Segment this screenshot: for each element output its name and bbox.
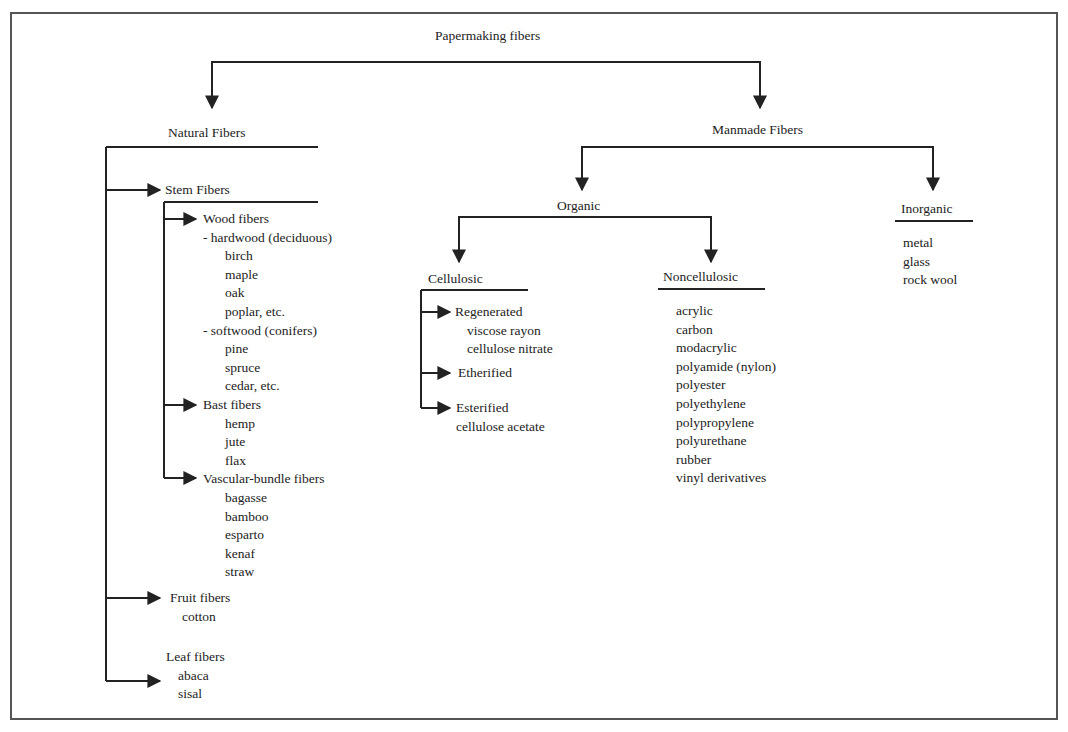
list-item: cellulose nitrate [455,340,553,359]
connector-lines [0,0,1068,732]
list-item: kenaf [203,545,332,564]
list-item: rubber [676,451,776,470]
list-item: oak [203,284,332,303]
list-item: carbon [676,321,776,340]
list-item: esparto [203,526,332,545]
list-item: cotton [170,608,230,627]
regenerated-group: Regenerated viscose rayon cellulose nitr… [455,303,553,359]
list-item: metal [903,234,957,253]
fruit-fibers-group: Fruit fibers cotton [170,589,230,626]
list-item: glass [903,253,957,272]
list-item: modacrylic [676,339,776,358]
natural-fibers-label: Natural Fibers [168,124,246,142]
vascular-fibers-label: Vascular-bundle fibers [203,470,332,489]
list-item: flax [203,452,332,471]
manmade-fibers-label: Manmade Fibers [712,121,803,139]
list-item: cellulose acetate [456,418,545,437]
organic-label: Organic [557,197,600,215]
list-item: polypropylene [676,414,776,433]
list-item: poplar, etc. [203,303,332,322]
noncellulosic-label: Noncellulosic [663,268,738,286]
list-item: acrylic [676,302,776,321]
regenerated-label: Regenerated [455,303,553,322]
list-item: pine [203,340,332,359]
list-item: vinyl derivatives [676,469,776,488]
leaf-fibers-label: Leaf fibers [166,648,225,667]
bast-fibers-label: Bast fibers [203,396,332,415]
noncellulosic-list: acrylic carbon modacrylic polyamide (nyl… [676,302,776,488]
list-item: birch [203,247,332,266]
list-item: cedar, etc. [203,377,332,396]
inorganic-list: metal glass rock wool [903,234,957,290]
leaf-fibers-group: Leaf fibers abaca sisal [166,648,225,704]
cellulosic-label: Cellulosic [428,270,483,288]
stem-fibers-label: Stem Fibers [165,181,230,199]
stem-fibers-list: Wood fibers - hardwood (deciduous) birch… [203,210,332,582]
list-item: polyester [676,376,776,395]
list-item: abaca [166,667,225,686]
hardwood-label: - hardwood (deciduous) [203,229,332,248]
list-item: hemp [203,415,332,434]
inorganic-label: Inorganic [901,200,952,218]
list-item: spruce [203,359,332,378]
esterified-group: Esterified cellulose acetate [456,399,545,436]
list-item: polyethylene [676,395,776,414]
list-item: bagasse [203,489,332,508]
root-label: Papermaking fibers [435,27,540,45]
list-item: rock wool [903,271,957,290]
list-item: maple [203,266,332,285]
list-item: polyamide (nylon) [676,358,776,377]
list-item: polyurethane [676,432,776,451]
list-item: jute [203,433,332,452]
list-item: sisal [166,685,225,704]
etherified-label: Etherified [458,364,512,382]
list-item: bamboo [203,508,332,527]
softwood-label: - softwood (conifers) [203,322,332,341]
list-item: straw [203,563,332,582]
fruit-fibers-label: Fruit fibers [170,589,230,608]
esterified-label: Esterified [456,399,545,418]
list-item: viscose rayon [455,322,553,341]
wood-fibers-label: Wood fibers [203,210,332,229]
